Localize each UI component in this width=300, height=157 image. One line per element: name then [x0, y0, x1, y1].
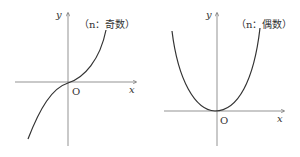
- even-x-label: x: [277, 114, 283, 124]
- even-graph: [164, 13, 284, 146]
- even-curve: [172, 28, 260, 111]
- even-graph-label: （n：偶数）: [236, 20, 292, 30]
- odd-origin-label: O: [72, 87, 80, 97]
- even-origin-label: O: [220, 116, 228, 126]
- odd-x-label: x: [129, 85, 135, 95]
- odd-graph-label: （n：奇数）: [79, 20, 135, 30]
- odd-graph: [15, 13, 136, 146]
- odd-y-label: y: [56, 10, 62, 20]
- odd-curve: [28, 30, 106, 139]
- even-y-label: y: [206, 10, 212, 20]
